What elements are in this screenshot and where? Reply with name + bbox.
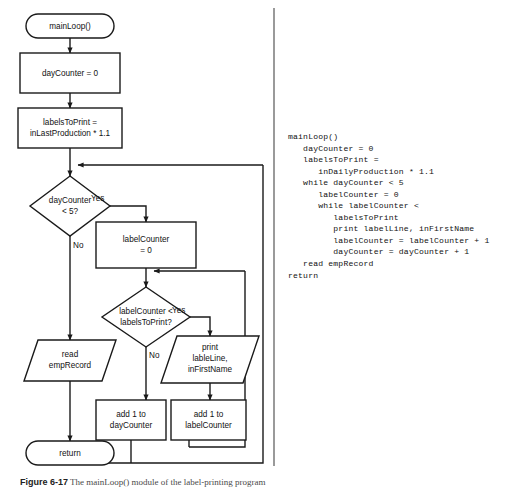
branch-label-day-yes: Yes	[91, 194, 104, 203]
branch-label-label-no: No	[149, 351, 160, 360]
node-init-labels-label-line1: labelsToPrint =	[43, 118, 97, 127]
node-print-label-line3: inFirstName	[188, 365, 233, 374]
figure-caption-label: Figure 6-17	[20, 477, 68, 487]
connector-label-yes-to-print	[190, 317, 210, 336]
node-print-label-line2: lableLine,	[192, 354, 227, 363]
node-init-label-counter-label-line1: labelCounter	[123, 235, 170, 244]
node-add-label-label-line2: labelCounter	[185, 421, 232, 430]
node-day-decision-label-line2: < 5?	[62, 207, 79, 216]
node-add-day-label-line2: dayCounter	[110, 421, 153, 430]
node-print-label-line1: print	[202, 343, 219, 352]
node-label-decision-label-line2: labelsToPrint?	[120, 318, 172, 327]
connector-day-yes-to-init-label-counter	[110, 206, 146, 222]
figure-container: mainLoop() dayCounter = 0 labelsToPrint …	[0, 0, 524, 487]
node-read-label-line1: read	[62, 350, 79, 359]
node-init-day-label: dayCounter = 0	[42, 69, 99, 78]
node-init-label-counter-label-line2: = 0	[140, 246, 152, 255]
node-init-labels-label-line2: inLastProduction * 1.1	[30, 129, 111, 138]
pseudocode-block: mainLoop() dayCounter = 0 labelsToPrint …	[288, 131, 520, 281]
node-end-label: return	[59, 449, 81, 458]
node-label-decision-label-line1: labelCounter <	[119, 307, 173, 316]
node-add-day-label-line1: add 1 to	[116, 410, 146, 419]
node-read-label-line2: empRecord	[49, 361, 92, 370]
branch-label-label-yes: Yes	[172, 306, 185, 315]
branch-label-day-no: No	[73, 241, 84, 250]
node-start-label: mainLoop()	[49, 22, 91, 31]
node-day-decision-label-line1: dayCounter	[49, 196, 92, 205]
figure-caption: Figure 6-17 The mainLoop() module of the…	[20, 477, 520, 487]
figure-caption-text: The mainLoop() module of the label-print…	[70, 477, 265, 487]
panel-divider	[273, 8, 275, 466]
node-add-label-label-line1: add 1 to	[194, 410, 224, 419]
